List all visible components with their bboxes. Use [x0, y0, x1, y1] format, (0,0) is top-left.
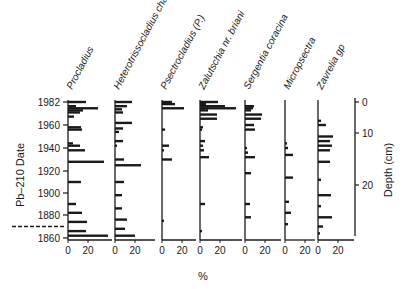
- depth-axis-title: Depth (cm): [382, 143, 394, 197]
- date-tick-label: 1940: [38, 143, 61, 154]
- percentage-bar: [245, 118, 261, 120]
- percentage-bar: [200, 140, 205, 142]
- percentage-bar: [115, 218, 127, 220]
- depth-tick-label: 10: [362, 128, 374, 139]
- percentage-bar: [318, 205, 321, 207]
- percentage-bar: [115, 181, 124, 183]
- percentage-bar: [115, 158, 124, 160]
- percentage-bar: [200, 103, 206, 105]
- percentage-bar: [200, 230, 202, 232]
- taxon-label: Sergentia coracina: [241, 12, 290, 91]
- percentage-bar: [68, 235, 108, 237]
- percentage-bar: [115, 127, 123, 129]
- percentage-bar: [285, 176, 293, 178]
- percent-tick-label: 20: [82, 245, 94, 256]
- percent-tick-label: 20: [332, 245, 344, 256]
- percentage-bar: [245, 156, 255, 158]
- percentage-bar: [68, 221, 87, 223]
- percentage-bar: [318, 161, 330, 163]
- percentage-bar: [68, 109, 83, 111]
- percentage-bar: [68, 126, 81, 128]
- percentage-bar: [115, 235, 135, 237]
- percent-tick-label: 20: [259, 245, 271, 256]
- percentage-bar: [245, 107, 253, 109]
- percentage-bar: [245, 216, 251, 218]
- percentage-bar: [285, 142, 287, 144]
- date-axis-title: Pb–210 Date: [14, 143, 26, 207]
- percentage-bar: [318, 232, 320, 234]
- taxon-panel: 020Zavrelia gp: [314, 42, 354, 256]
- depth-tick-label: 20: [362, 180, 374, 191]
- percentage-bar: [245, 105, 254, 107]
- percentage-bar: [68, 101, 86, 103]
- percentage-bar: [115, 164, 141, 166]
- percentage-bar: [245, 172, 251, 174]
- percentage-bar: [162, 220, 164, 222]
- date-tick-label: 1982: [38, 97, 61, 108]
- taxa-panels: 020Procladius020Heterotrissocladius chan…: [64, 0, 354, 256]
- percentage-bar: [68, 111, 80, 113]
- percentage-bar: [245, 151, 248, 153]
- percentage-bar: [68, 128, 82, 130]
- percentage-bar: [68, 145, 80, 147]
- percentage-bar: [115, 131, 119, 133]
- percentage-bar: [115, 140, 123, 142]
- percentage-bar: [68, 181, 81, 183]
- percent-axis-title: %: [198, 270, 208, 282]
- percentage-bar: [200, 128, 202, 130]
- taxon-label: Zavrelia gp: [314, 42, 348, 92]
- percentage-bar: [285, 212, 291, 214]
- percent-tick-label: 20: [176, 245, 188, 256]
- percentage-bar: [68, 149, 85, 151]
- taxon-label: Procladius: [64, 45, 96, 91]
- percent-tick-label: 20: [299, 245, 311, 256]
- date-tick-label: 1960: [38, 120, 61, 131]
- depth-tick-label: 0: [362, 97, 368, 108]
- percent-tick-label: 0: [65, 245, 71, 256]
- percentage-bar: [115, 111, 123, 113]
- percentage-bar: [68, 203, 76, 205]
- percentage-bar: [115, 207, 122, 209]
- percentage-bar: [162, 158, 172, 160]
- taxon-panel: 020Micropsectra: [281, 35, 318, 256]
- percentage-bar: [285, 223, 288, 225]
- percentage-bar: [68, 107, 98, 109]
- percentage-bar: [115, 194, 122, 196]
- percentage-bar: [68, 161, 104, 163]
- percent-tick-label: 0: [282, 245, 288, 256]
- percentage-bar: [200, 109, 208, 111]
- taxon-panel: 020Sergentia coracina: [241, 12, 290, 256]
- percentage-bar: [318, 179, 321, 181]
- percentage-bar: [318, 194, 331, 196]
- percentage-bar: [285, 154, 293, 156]
- percent-tick-label: 20: [214, 245, 226, 256]
- percentage-bar: [318, 149, 330, 151]
- percentage-bar: [200, 145, 203, 147]
- date-tick-label: 1880: [38, 210, 61, 221]
- percentage-bar: [285, 147, 288, 149]
- percentage-bar: [200, 105, 225, 107]
- depth-axis: 01020: [355, 97, 374, 237]
- taxon-panel: 020Procladius: [64, 45, 112, 256]
- percentage-bar: [318, 225, 323, 227]
- percentage-bar: [200, 126, 203, 128]
- percentage-bar: [200, 156, 209, 158]
- percentage-bar: [318, 140, 330, 142]
- taxon-panel: 020Heterotrissocladius changi: [111, 0, 176, 256]
- percent-tick-label: 0: [242, 245, 248, 256]
- percentage-bar: [245, 203, 250, 205]
- percentage-bar: [115, 122, 132, 124]
- taxon-panel: 020Psectrocladius (P.): [158, 13, 207, 256]
- taxon-label: Micropsectra: [281, 35, 318, 91]
- percentage-bar: [68, 212, 82, 214]
- percent-tick-label: 0: [197, 245, 203, 256]
- stratigraphic-chart: 1982196019401920190018801860 020Procladi…: [0, 0, 407, 289]
- percentage-bar: [162, 149, 164, 151]
- percentage-bar: [200, 101, 218, 103]
- percentage-bar: [245, 113, 262, 115]
- percentage-bar: [200, 107, 236, 109]
- taxon-panel: 020Zalutschia nr. briani: [196, 8, 247, 256]
- percentage-bar: [318, 120, 321, 122]
- percent-tick-label: 0: [315, 245, 321, 256]
- percentage-bar: [115, 101, 132, 103]
